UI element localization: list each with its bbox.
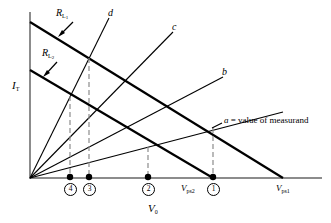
axis-dot-4 (67, 174, 73, 180)
supply-voltage-label-vps1: Vps1 (276, 184, 290, 193)
x-axis-label-main: V (148, 202, 155, 214)
ray-label-c: c (172, 22, 176, 32)
x-axis-label: V0 (148, 203, 158, 214)
operating-point-3: 3 (83, 183, 96, 196)
operating-point-2: 2 (142, 183, 155, 196)
axis-dot-1 (210, 174, 216, 180)
measurand-annotation: a = value of measurand (224, 116, 309, 125)
ray-b (30, 77, 223, 178)
axis-dot-2 (145, 174, 151, 180)
measurand-annotation-symbol: a (224, 115, 229, 125)
load-line-rl2 (30, 70, 213, 178)
y-axis-label: IT (12, 80, 19, 91)
vps2-sub: ps2 (187, 188, 195, 194)
leader-line-a (212, 123, 222, 128)
vps1-sub: ps1 (282, 188, 290, 194)
leader-arrow-rl2 (43, 62, 57, 77)
ray-label-b: b (222, 67, 227, 77)
axis-dot-3 (86, 174, 92, 180)
rl2-label-sub-digit: 2 (52, 55, 55, 60)
operating-point-4: 4 (64, 183, 77, 196)
supply-voltage-label-vps2: Vps2 (181, 184, 195, 193)
vps2-main: V (181, 183, 187, 193)
load-line-label-rl2: RL2 (42, 48, 54, 58)
load-line-label-rl1: RL1 (56, 8, 68, 18)
ray-label-d: d (108, 8, 113, 18)
figure-canvas: IT V0 RL1 RL2 d c b a = value of measura… (0, 0, 331, 223)
y-axis-label-sub: T (16, 86, 20, 92)
x-axis-label-sub: 0 (155, 209, 158, 215)
rl1-label-sub-digit: 1 (66, 15, 69, 20)
measurand-annotation-text: = value of measurand (231, 115, 309, 125)
operating-point-1: 1 (207, 183, 220, 196)
vps1-main: V (276, 183, 282, 193)
leader-arrow-rl1 (58, 22, 73, 37)
